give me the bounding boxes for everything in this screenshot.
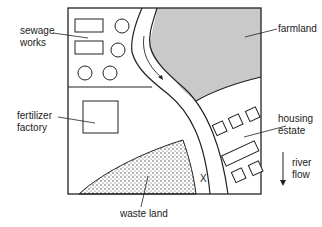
farmland-area (150, 8, 261, 101)
label-x: X (200, 173, 207, 184)
sewage-tank-circle-1 (115, 19, 129, 33)
label-works: works (20, 37, 46, 48)
sewage-tank-rect-1 (75, 19, 103, 32)
down-arrow-icon (280, 180, 286, 186)
label-river: river (292, 157, 311, 168)
label-factory: factory (17, 122, 47, 133)
sewage-tank-rect-2 (75, 41, 103, 54)
arrowhead-icon (158, 75, 163, 80)
housing-estate-houses (212, 107, 263, 183)
label-flow: flow (292, 169, 310, 180)
factory-building (83, 101, 118, 133)
label-housing: housing (278, 113, 313, 124)
label-sewage: sewage (20, 25, 54, 36)
sewage-tank-circle-3 (78, 66, 92, 80)
sewage-tank-circle-4 (103, 66, 117, 80)
label-estate: estate (278, 125, 305, 136)
waste-land-area (79, 140, 196, 194)
label-farmland: farmland (278, 23, 317, 34)
label-fertilizer: fertilizer (17, 110, 52, 121)
leader-sewage (53, 33, 88, 38)
label-waste-land: waste land (120, 208, 168, 219)
sewage-tank-circle-2 (111, 43, 125, 57)
